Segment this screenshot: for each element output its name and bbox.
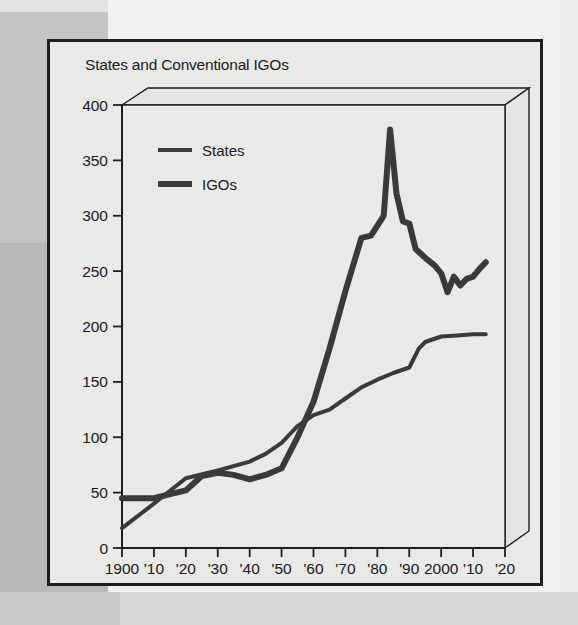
legend-label-igos: IGOs <box>202 176 237 193</box>
x-axis-tick-labels: 1900'10'20'30'40'50'60'70'80'902000'10'2… <box>105 560 516 577</box>
x-tick-label: '40 <box>240 560 261 577</box>
y-tick-label: 400 <box>82 97 108 114</box>
y-tick-label: 100 <box>82 429 108 446</box>
y-tick-label: 50 <box>91 484 109 501</box>
y-tick-label: 300 <box>82 207 108 224</box>
x-tick-label: '50 <box>271 560 292 577</box>
y-axis-ticks <box>113 105 122 548</box>
legend-label-states: States <box>202 142 245 159</box>
x-tick-label: 1900 <box>105 560 140 577</box>
x-tick-label: '70 <box>335 560 356 577</box>
x-tick-label: '10 <box>463 560 484 577</box>
y-tick-label: 150 <box>82 373 108 390</box>
x-tick-label: '20 <box>176 560 197 577</box>
y-axis-tick-labels: 050100150200250300350400 <box>82 97 108 557</box>
plot-box-right-face <box>505 88 529 548</box>
plot-box-top-face <box>122 88 529 105</box>
x-tick-label: '10 <box>144 560 165 577</box>
x-tick-label: '80 <box>367 560 388 577</box>
x-tick-label: '90 <box>399 560 420 577</box>
x-tick-label: '20 <box>495 560 516 577</box>
y-tick-label: 250 <box>82 263 108 280</box>
y-tick-label: 350 <box>82 152 108 169</box>
x-tick-label: '30 <box>208 560 229 577</box>
line-chart: 050100150200250300350400 1900'10'20'30'4… <box>0 0 578 625</box>
y-tick-label: 200 <box>82 318 108 335</box>
scanned-page-background: States and Conventional IGOs 05010015020… <box>0 0 578 625</box>
x-tick-label: '60 <box>303 560 324 577</box>
x-axis-ticks <box>122 548 505 557</box>
x-tick-label: 2000 <box>424 560 459 577</box>
y-tick-label: 0 <box>99 540 108 557</box>
